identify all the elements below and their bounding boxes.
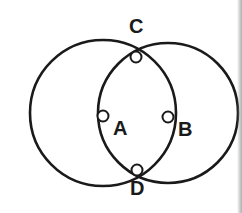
point-marker-d xyxy=(132,165,143,176)
figure-canvas xyxy=(0,0,242,213)
point-label-b: B xyxy=(178,119,192,139)
point-marker-a xyxy=(98,111,109,122)
point-marker-b xyxy=(163,112,174,123)
point-label-c: C xyxy=(129,16,143,36)
point-marker-c xyxy=(131,52,142,63)
circle-intersection-figure: A B C D xyxy=(0,0,242,213)
point-label-d: D xyxy=(130,178,144,198)
point-label-a: A xyxy=(113,118,127,138)
